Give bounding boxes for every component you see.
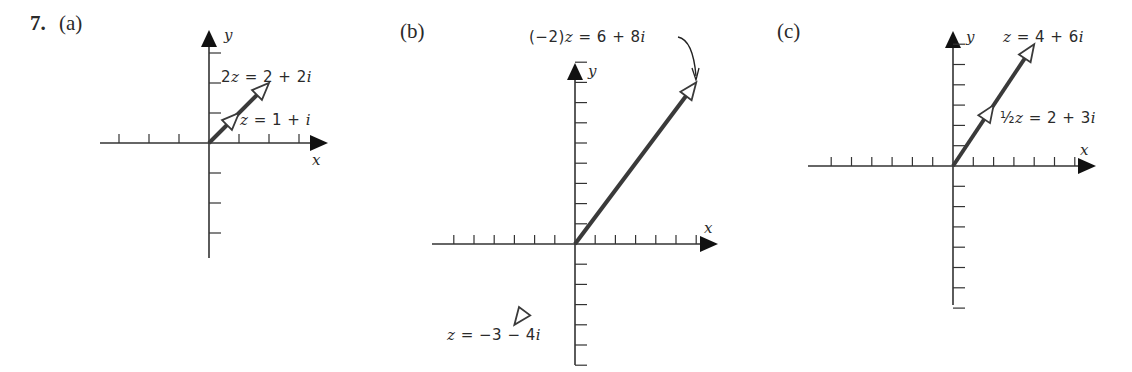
diagram-canvas: 7. (a) (b) (c) x y 2z = 2 + 2i z = 1 + i… [0, 0, 1132, 372]
open-arrowhead-icon [978, 105, 993, 123]
vector-label-z: z = 4 + 6i [1002, 28, 1084, 46]
y-axis-label: y [223, 26, 233, 44]
panel-c-plane: x y z = 4 + 6i ½z = 2 + 3i [808, 28, 1096, 308]
vector-label-half-z: ½z = 2 + 3i [1000, 109, 1096, 127]
problem-number: 7. [30, 11, 46, 35]
vector-label-z: z = −3 − 4i [446, 326, 541, 344]
vector-shaft [575, 96, 686, 244]
y-axis-arrow-icon [945, 31, 961, 48]
x-axis-label: x [704, 219, 713, 237]
y-axis-ticks [953, 44, 965, 308]
panel-b-plane: x y (−2)z = 6 + 8i z = −3 − 4i [432, 28, 718, 365]
x-axis-arrow-icon [310, 135, 328, 151]
panel-label-b: (b) [400, 19, 425, 43]
y-axis [567, 63, 583, 365]
vector-label-2z: 2z = 2 + 2i [221, 68, 312, 86]
panel-label-a: (a) [59, 11, 82, 35]
vectors [953, 44, 1034, 166]
x-axis-label: x [1080, 141, 1089, 159]
open-arrowhead-icon [514, 307, 530, 325]
y-axis-label: y [965, 28, 975, 46]
y-axis-ticks [575, 62, 587, 365]
open-arrowhead-icon [1019, 44, 1034, 62]
x-axis-arrow-icon [1078, 158, 1096, 174]
y-axis-label: y [587, 62, 597, 80]
y-axis-arrow-icon [201, 30, 217, 47]
x-axis-label: x [312, 151, 321, 169]
panel-a-plane: x y 2z = 2 + 2i z = 1 + i [100, 26, 328, 258]
vector-label-neg2z: (−2)z = 6 + 8i [529, 28, 646, 46]
panel-label-c: (c) [777, 19, 800, 43]
y-axis [945, 31, 961, 305]
y-axis [201, 30, 217, 258]
vectors [514, 82, 696, 324]
x-axis-arrow-icon [700, 236, 718, 252]
vector-label-z: z = 1 + i [239, 111, 311, 129]
y-axis-arrow-icon [567, 63, 583, 80]
